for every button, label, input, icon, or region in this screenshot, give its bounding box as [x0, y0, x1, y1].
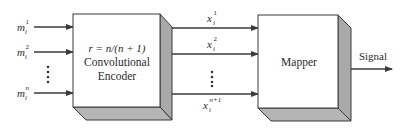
mapper-block: Mapper	[258, 15, 351, 121]
svg-text:1: 1	[26, 18, 30, 26]
encoder-rate-label: r = n/(n + 1)	[88, 42, 145, 55]
svg-text:i: i	[25, 94, 27, 102]
output-signal-label: Signal	[359, 50, 387, 62]
svg-text:i: i	[25, 28, 27, 36]
svg-text:2: 2	[214, 35, 218, 43]
svg-text:i: i	[25, 53, 27, 61]
input-ellipsis	[47, 66, 50, 84]
svg-text:m: m	[17, 87, 25, 99]
intermediate-label-n1: x i n+1	[202, 96, 221, 114]
svg-text:x: x	[202, 99, 208, 111]
convolutional-encoder-block: r = n/(n + 1) Convolutional Encoder	[73, 14, 172, 120]
intermediate-ellipsis	[211, 71, 214, 88]
svg-text:i: i	[213, 45, 215, 53]
encoder-title-line2: Encoder	[98, 70, 136, 82]
svg-text:x: x	[206, 12, 212, 24]
intermediate-label-1: x i 1	[206, 9, 218, 27]
block-diagram: m i 1 m i 2 m i n r = n/(n + 1) Convolut…	[0, 0, 410, 131]
input-label-1: m i 1	[17, 18, 30, 36]
mapper-label: Mapper	[281, 56, 317, 69]
encoder-bottom-face	[73, 107, 172, 120]
input-label-2: m i 2	[17, 43, 30, 61]
svg-text:2: 2	[26, 43, 30, 51]
encoder-side-face	[160, 14, 172, 120]
svg-text:n: n	[26, 84, 30, 92]
svg-text:n+1: n+1	[210, 96, 222, 104]
intermediate-label-2: x i 2	[206, 35, 218, 53]
mapper-bottom-face	[258, 108, 351, 121]
svg-text:m: m	[17, 46, 25, 58]
svg-text:x: x	[206, 38, 212, 50]
mapper-side-face	[338, 15, 351, 121]
svg-text:i: i	[209, 106, 211, 114]
svg-text:1: 1	[214, 9, 218, 17]
encoder-title-line1: Convolutional	[84, 56, 150, 68]
svg-text:i: i	[213, 19, 215, 27]
svg-text:m: m	[17, 21, 25, 33]
input-label-n: m i n	[17, 84, 30, 102]
